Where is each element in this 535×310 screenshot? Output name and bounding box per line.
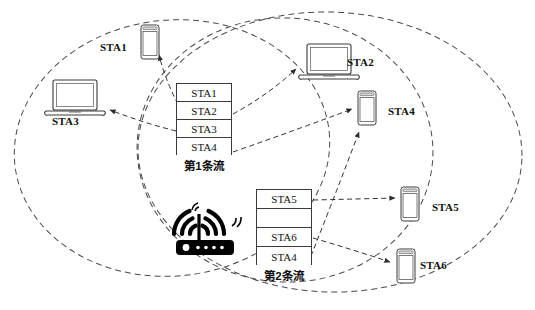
stream-row: STA1 — [177, 84, 231, 102]
stream-row — [257, 209, 311, 228]
flow-stream1-sta4-arrow — [233, 109, 352, 152]
stream-2-stack: STA5STA6STA4 — [256, 189, 312, 265]
stream-row: STA6 — [257, 228, 311, 247]
network-diagram: STA1STA2STA3STA4STA5STA6 STA1STA2STA3STA… — [0, 0, 535, 310]
flow-stream2-sta6-arrow — [313, 238, 390, 262]
flow-stream2-sta4-arrow — [311, 132, 359, 256]
flow-stream2-sta5-arrow — [313, 198, 395, 200]
stream-row: STA3 — [177, 120, 231, 138]
wifi-router-icon — [168, 200, 250, 266]
station-label-sta6: STA6 — [420, 259, 447, 271]
station-label-sta4: STA4 — [388, 105, 415, 117]
flow-stream1-sta3-arrow — [110, 110, 176, 131]
phone-icon-sta6 — [396, 248, 416, 284]
stream-row: STA4 — [257, 247, 311, 266]
stream-2-caption: 第2条流 — [256, 267, 312, 283]
stream-1-caption: 第1条流 — [176, 157, 232, 173]
stream-row: STA5 — [257, 190, 311, 209]
phone-icon-sta4 — [357, 90, 377, 126]
flow-arrows-group — [110, 55, 395, 262]
stream-row: STA2 — [177, 102, 231, 120]
phone-icon-sta1 — [140, 24, 160, 60]
phone-icon-sta5 — [400, 186, 420, 222]
station-label-sta1: STA1 — [100, 41, 127, 53]
station-label-sta2: STA2 — [347, 56, 374, 68]
stream-row: STA4 — [177, 138, 231, 156]
stream-1-stack: STA1STA2STA3STA4 — [176, 83, 232, 155]
flow-stream1-sta2-arrow — [233, 69, 296, 114]
station-label-sta3: STA3 — [52, 115, 79, 127]
laptop-icon-sta3 — [44, 79, 106, 119]
station-label-sta5: STA5 — [432, 201, 459, 213]
